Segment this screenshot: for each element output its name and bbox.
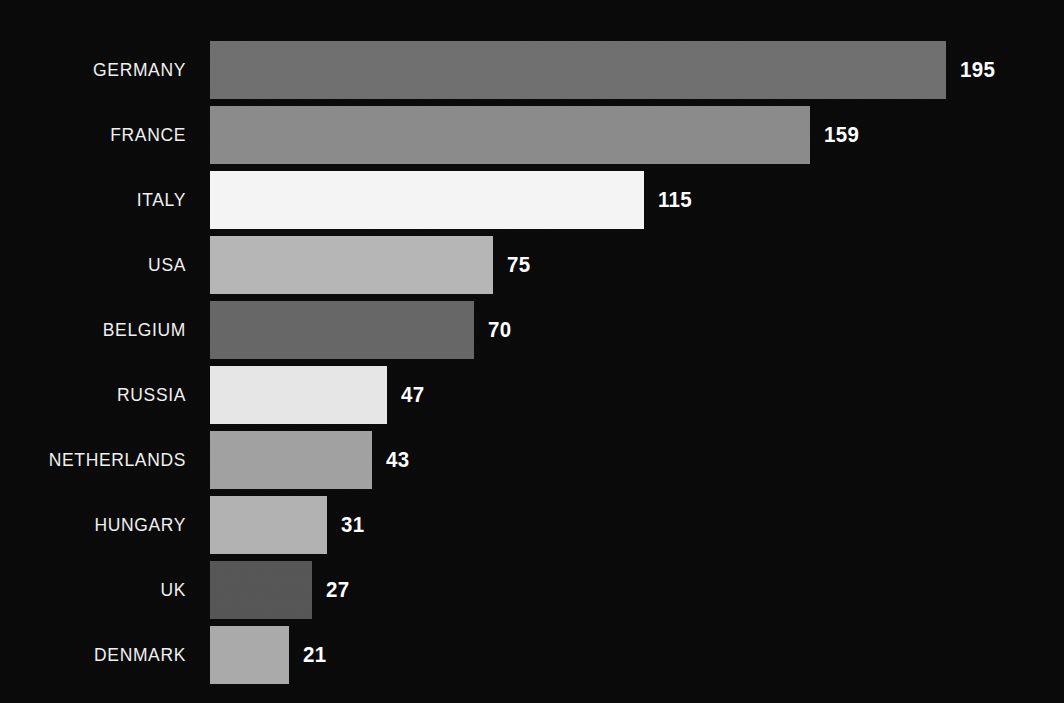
bar-value-label: 27 <box>326 561 350 619</box>
bar-category-label: RUSSIA <box>15 384 186 406</box>
bar-row[interactable]: ITALY115 <box>0 171 1064 229</box>
bar-category-label: HUNGARY <box>15 514 186 536</box>
bar-value-label: 21 <box>303 626 327 684</box>
bar-category-label: BELGIUM <box>15 319 186 341</box>
bar-rect[interactable] <box>210 561 312 619</box>
bar-rect[interactable] <box>210 171 644 229</box>
bar-value-label: 47 <box>401 366 425 424</box>
bar-rect[interactable] <box>210 626 289 684</box>
bar-value-label: 75 <box>507 236 531 294</box>
bar-rect[interactable] <box>210 106 810 164</box>
bar-rect[interactable] <box>210 301 474 359</box>
chart-plot-area: GERMANY195FRANCE159ITALY115USA75BELGIUM7… <box>0 0 1064 703</box>
bar-value-label: 43 <box>386 431 410 489</box>
bar-row[interactable]: BELGIUM70 <box>0 301 1064 359</box>
bar-row[interactable]: UK27 <box>0 561 1064 619</box>
bar-category-label: USA <box>15 254 186 276</box>
bar-value-label: 31 <box>341 496 365 554</box>
bar-rect[interactable] <box>210 431 372 489</box>
bar-category-label: GERMANY <box>15 59 186 81</box>
bar-chart: GERMANY195FRANCE159ITALY115USA75BELGIUM7… <box>0 0 1064 703</box>
bar-row[interactable]: USA75 <box>0 236 1064 294</box>
bar-value-label: 115 <box>658 171 692 229</box>
bar-rect[interactable] <box>210 41 946 99</box>
bar-row[interactable]: FRANCE159 <box>0 106 1064 164</box>
bar-row[interactable]: GERMANY195 <box>0 41 1064 99</box>
bar-rect[interactable] <box>210 236 493 294</box>
bar-rect[interactable] <box>210 496 327 554</box>
bar-row[interactable]: DENMARK21 <box>0 626 1064 684</box>
bar-category-label: NETHERLANDS <box>15 449 186 471</box>
bar-category-label: ITALY <box>15 189 186 211</box>
bar-value-label: 70 <box>488 301 512 359</box>
bar-row[interactable]: RUSSIA47 <box>0 366 1064 424</box>
bar-row[interactable]: HUNGARY31 <box>0 496 1064 554</box>
bar-category-label: DENMARK <box>15 644 186 666</box>
bar-category-label: UK <box>15 579 186 601</box>
bar-value-label: 159 <box>824 106 859 164</box>
bar-value-label: 195 <box>960 41 995 99</box>
bar-category-label: FRANCE <box>15 124 186 146</box>
bar-rect[interactable] <box>210 366 387 424</box>
bar-row[interactable]: NETHERLANDS43 <box>0 431 1064 489</box>
